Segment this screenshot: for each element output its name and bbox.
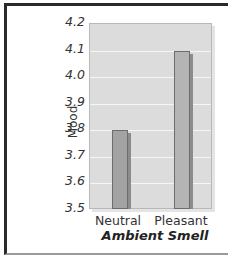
y-tick-label: 4.2 — [45, 16, 85, 28]
category-label-neutral: Neutral — [83, 213, 153, 228]
y-tick-label: 3.5 — [45, 202, 85, 214]
x-axis-label: Ambient Smell — [90, 228, 220, 243]
y-tick-label: 3.7 — [45, 149, 85, 161]
gridline — [90, 51, 211, 52]
y-tick-label: 4.1 — [45, 43, 85, 55]
plot-area — [89, 23, 212, 209]
y-axis-label: Mood — [66, 97, 80, 147]
category-label-pleasant: Pleasant — [146, 213, 216, 228]
y-tick-label: 3.6 — [45, 175, 85, 187]
bar-pleasant — [174, 51, 190, 209]
y-tick-label: 4.0 — [45, 69, 85, 81]
bar-neutral — [112, 130, 128, 209]
